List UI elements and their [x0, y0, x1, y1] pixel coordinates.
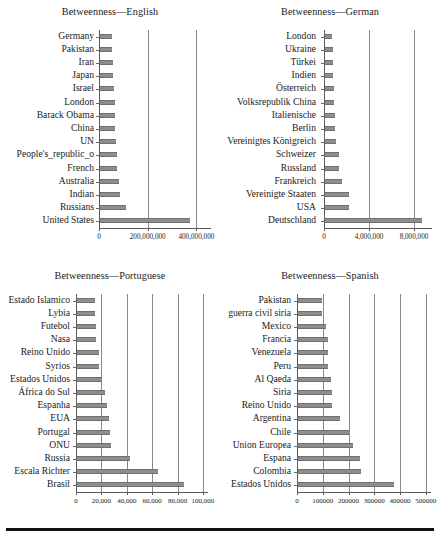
category-label: Estado Islamico — [0, 295, 70, 305]
bar — [298, 482, 394, 487]
bar — [77, 482, 184, 487]
x-tick — [400, 492, 401, 495]
x-tick — [152, 492, 153, 495]
category-label: EUA — [0, 413, 70, 423]
category-label: Japan — [0, 70, 94, 80]
category-label: Estados Unidos — [220, 479, 291, 489]
category-label: Francia — [220, 334, 291, 344]
category-label: Australia — [0, 176, 94, 186]
chart-title-spanish: Betweenness—Spanish — [220, 270, 440, 281]
y-tick — [73, 393, 76, 394]
x-tick — [374, 492, 375, 495]
chart-panel-spanish: Betweenness—SpanishPakistanguerra civil … — [220, 264, 440, 526]
category-label: UN — [0, 136, 94, 146]
bottom-rule — [6, 528, 434, 531]
bar — [298, 298, 322, 303]
y-tick — [73, 472, 76, 473]
category-label: Escala Richter — [0, 466, 70, 476]
bar — [77, 337, 96, 342]
bar — [298, 350, 328, 355]
y-tick — [294, 380, 297, 381]
chart-panel-german: Betweenness—GermanLondonUkraineTürkeiInd… — [220, 0, 440, 262]
bar — [77, 350, 99, 355]
category-label: French — [0, 163, 94, 173]
bar — [325, 205, 349, 210]
bar — [100, 86, 114, 91]
y-tick — [73, 446, 76, 447]
y-tick — [96, 208, 99, 209]
category-label: Espanha — [0, 400, 70, 410]
y-tick — [96, 50, 99, 51]
category-label: ONU — [0, 440, 70, 450]
bar — [77, 416, 109, 421]
y-tick — [73, 340, 76, 341]
bar — [100, 166, 117, 171]
category-label: China — [0, 123, 94, 133]
bar — [298, 311, 322, 316]
y-tick — [321, 142, 324, 143]
gridline-spanish-2 — [349, 294, 350, 492]
category-label: Colombia — [220, 466, 291, 476]
bar — [298, 403, 332, 408]
x-tick — [178, 492, 179, 495]
category-label: Union Europea — [220, 440, 291, 450]
bar — [100, 126, 115, 131]
category-label: Espana — [220, 453, 291, 463]
gridline-german-1 — [369, 30, 370, 228]
x-tick — [369, 228, 370, 231]
chart-title-english: Betweenness—English — [0, 6, 220, 17]
y-tick — [294, 314, 297, 315]
category-label: Vereinigtes Königreich — [220, 136, 316, 146]
chart-panel-portuguese: Betweenness—PortugueseEstado IslamicoLyb… — [0, 264, 220, 526]
gridline-english-2 — [196, 30, 197, 228]
x-tick — [148, 228, 149, 231]
category-label: Volksrepublik China — [220, 97, 316, 107]
category-label: Siria — [220, 387, 291, 397]
bar — [100, 60, 113, 65]
y-tick — [321, 116, 324, 117]
x-tick-label: 400,000,000 — [166, 233, 226, 241]
category-label: Russians — [0, 202, 94, 212]
bar — [325, 60, 333, 65]
category-label: Reino Unido — [0, 347, 70, 357]
y-tick — [73, 485, 76, 486]
y-tick — [321, 221, 324, 222]
x-tick-label: 500000 — [396, 497, 440, 505]
gridline-portuguese-4 — [178, 294, 179, 492]
x-axis-english — [99, 228, 211, 229]
x-tick — [196, 228, 197, 231]
y-tick — [294, 340, 297, 341]
category-label: People's_republic_o — [0, 149, 94, 159]
x-tick — [99, 228, 100, 231]
x-axis-spanish — [297, 492, 431, 493]
category-label: Syrios — [0, 361, 70, 371]
bar — [100, 73, 113, 78]
bar — [298, 364, 328, 369]
category-label: Futebol — [0, 321, 70, 331]
bar — [298, 416, 340, 421]
y-tick — [96, 76, 99, 77]
bar — [325, 139, 336, 144]
y-tick — [321, 37, 324, 38]
category-label: Barack Obama — [0, 110, 94, 120]
gridline-german-2 — [414, 30, 415, 228]
bar — [325, 86, 334, 91]
y-tick — [73, 433, 76, 434]
category-label: Argentina — [220, 413, 291, 423]
category-label: Indian — [0, 189, 94, 199]
category-label: Türkei — [220, 57, 316, 67]
bar — [77, 403, 107, 408]
bar — [100, 47, 112, 52]
y-tick — [321, 155, 324, 156]
category-label: Mexico — [220, 321, 291, 331]
y-tick — [96, 182, 99, 183]
category-label: London — [220, 31, 316, 41]
gridline-spanish-3 — [374, 294, 375, 492]
y-tick — [321, 129, 324, 130]
bar — [298, 337, 328, 342]
betweenness-figure: Betweenness—EnglishGermanyPakistanIranJa… — [0, 0, 440, 539]
y-tick — [96, 221, 99, 222]
x-axis-portuguese — [76, 492, 208, 493]
category-label: Iran — [0, 57, 94, 67]
bar — [298, 377, 331, 382]
